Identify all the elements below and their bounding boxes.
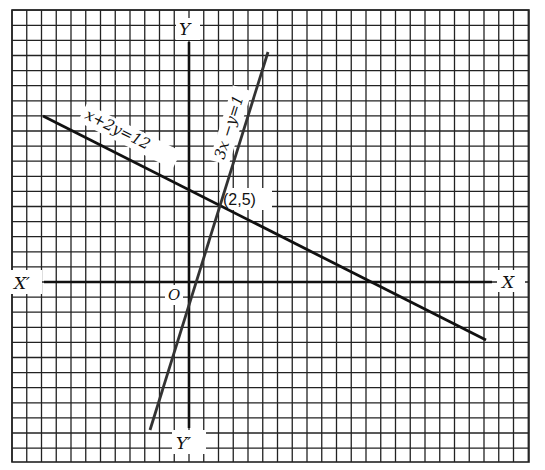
y-negative-label: Y′ [176,433,191,453]
intersection-label: (2,5) [223,191,256,208]
origin-label: O [168,286,180,304]
y-positive-label: Y [179,19,192,39]
x-positive-label: X [500,272,515,292]
grid-border [12,10,529,462]
x-negative-label: X′ [12,273,30,293]
line-3x-minus-y-eq-1 [150,52,268,430]
line2-label: 3x −y=1 [211,93,248,161]
grid [12,10,529,462]
coordinate-graph: x+2y=12 3x −y=1 X′ X Y Y′ O (2,5) [0,0,545,470]
line-x-plus-2y-eq-12 [43,116,486,340]
